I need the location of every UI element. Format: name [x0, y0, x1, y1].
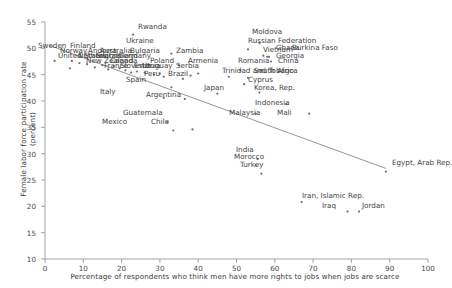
- data-point-label: Malaysia: [229, 109, 260, 117]
- data-point-marker[interactable]: [189, 75, 191, 77]
- data-point-label: Chile: [151, 118, 169, 126]
- data-point-label: Mexico: [102, 118, 127, 126]
- data-point-label: Iraq: [322, 202, 336, 210]
- data-point-label: Mali: [277, 109, 292, 117]
- data-point-marker[interactable]: [163, 76, 165, 78]
- data-point-label: Ukraine: [126, 37, 154, 45]
- data-point-marker[interactable]: [301, 201, 303, 203]
- data-point-label: Bulgaria: [130, 47, 160, 55]
- data-point-label: Poland: [150, 57, 174, 65]
- data-point-marker[interactable]: [53, 60, 55, 62]
- y-tick-label: 10: [16, 255, 36, 264]
- data-point-marker[interactable]: [308, 113, 310, 115]
- data-point-label: Romania: [238, 57, 269, 65]
- data-point-label: Brazil: [168, 70, 188, 78]
- data-point-label: Moldova: [252, 28, 282, 36]
- data-point-marker[interactable]: [71, 60, 73, 62]
- x-tick-marks: [45, 259, 428, 263]
- data-point-marker[interactable]: [191, 128, 193, 130]
- data-point-label: Italy: [100, 88, 116, 96]
- data-point-marker[interactable]: [216, 93, 218, 95]
- data-point-label: Argentina: [146, 91, 181, 99]
- data-point-label: Japan: [204, 84, 224, 92]
- data-point-label: Jordan: [362, 202, 385, 210]
- data-point-marker[interactable]: [172, 129, 174, 131]
- data-point-label: Indonesia: [255, 99, 290, 107]
- data-point-label: Guatemala: [123, 109, 163, 117]
- y-axis-title: Female labor force participation rate (p…: [19, 44, 37, 214]
- data-point-label: Spain: [126, 76, 146, 84]
- data-point-label: China: [278, 57, 299, 65]
- data-point-marker[interactable]: [184, 98, 186, 100]
- data-point-marker[interactable]: [270, 60, 272, 62]
- data-point-marker[interactable]: [260, 173, 262, 175]
- data-point-marker[interactable]: [94, 66, 96, 68]
- data-point-marker[interactable]: [69, 67, 71, 69]
- data-point-marker[interactable]: [358, 211, 360, 213]
- data-point-label: Egypt, Arab Rep.: [392, 159, 452, 167]
- data-point-marker[interactable]: [346, 211, 348, 213]
- data-point-marker[interactable]: [130, 71, 132, 73]
- data-point-label: Peru: [144, 70, 160, 78]
- data-point-label: Zambia: [176, 47, 203, 55]
- data-point-marker[interactable]: [197, 73, 199, 75]
- data-point-marker[interactable]: [170, 86, 172, 88]
- y-tick-marks: [41, 22, 45, 259]
- data-point-marker[interactable]: [78, 62, 80, 64]
- x-axis-title: Percentage of respondents who think men …: [45, 272, 425, 281]
- data-point-marker[interactable]: [136, 70, 138, 72]
- data-point-label: Korea, Rep.: [254, 84, 295, 92]
- data-point-label: Rwanda: [138, 23, 167, 31]
- data-point-marker[interactable]: [182, 78, 184, 80]
- data-point-marker[interactable]: [247, 48, 249, 50]
- data-point-marker[interactable]: [228, 76, 230, 78]
- data-point-label: Turkey: [240, 161, 263, 169]
- data-point-marker[interactable]: [170, 53, 172, 55]
- y-tick-label: 55: [16, 18, 36, 27]
- y-tick-label: 15: [16, 229, 36, 238]
- data-point-marker[interactable]: [385, 170, 387, 172]
- data-point-label: South Africa: [254, 67, 298, 75]
- data-point-marker[interactable]: [243, 83, 245, 85]
- data-point-label: Iran, Islamic Rep.: [302, 192, 364, 200]
